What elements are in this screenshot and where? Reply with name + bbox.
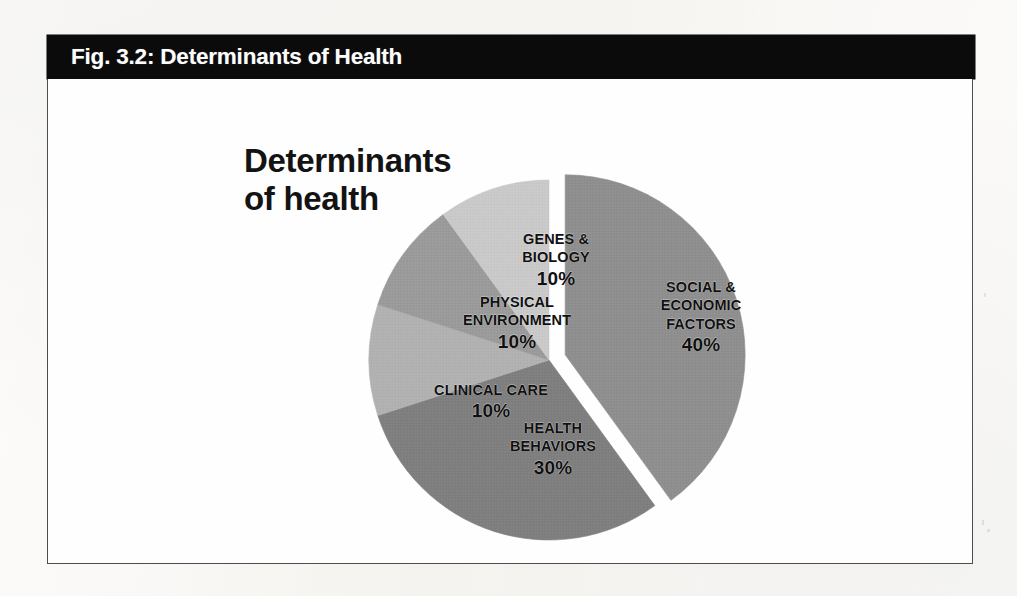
slice-value-genes: 10% [522, 266, 590, 290]
slice-label-health-line-2: BEHAVIORS [510, 437, 596, 455]
slice-label-social-line-1: SOCIAL & [661, 278, 742, 296]
slice-label-genes-line-2: BIOLOGY [522, 248, 590, 266]
slice-label-social-line-3: FACTORS [661, 314, 742, 332]
slice-label-genes-line-1: GENES & [522, 230, 590, 248]
scan-speck-3 [984, 293, 986, 297]
figure-header-title: Fig. 3.2: Determinants of Health [71, 44, 402, 70]
slice-label-clinical-care: CLINICAL CARE 10% [434, 381, 548, 423]
figure-header-bar: Fig. 3.2: Determinants of Health [47, 35, 975, 79]
slice-label-physical-line-2: ENVIRONMENT [463, 311, 571, 329]
slice-label-physical-environment: PHYSICAL ENVIRONMENT 10% [463, 293, 571, 353]
slice-value-health: 30% [510, 455, 596, 479]
slice-value-physical: 10% [463, 329, 571, 353]
figure-frame: Fig. 3.2: Determinants of Health Determi… [47, 35, 975, 566]
slice-label-physical-line-1: PHYSICAL [463, 293, 571, 311]
scan-speck-1 [982, 520, 984, 525]
slice-label-social-line-2: ECONOMIC [661, 296, 742, 314]
figure-page: Fig. 3.2: Determinants of Health Determi… [0, 0, 1017, 596]
slice-label-health-behaviors: HEALTH BEHAVIORS 30% [510, 419, 596, 479]
slice-value-clinical: 10% [434, 399, 548, 423]
slice-label-social-economic-factors: SOCIAL & ECONOMIC FACTORS 40% [661, 278, 742, 357]
pie-chart: Determinants of health [48, 79, 972, 563]
slice-label-genes-biology: GENES & BIOLOGY 10% [522, 230, 590, 290]
figure-body: Determinants of health [47, 79, 973, 564]
slice-label-clinical-line-1: CLINICAL CARE [434, 381, 548, 399]
slice-value-social: 40% [661, 332, 742, 356]
scan-speck-2 [987, 529, 990, 532]
